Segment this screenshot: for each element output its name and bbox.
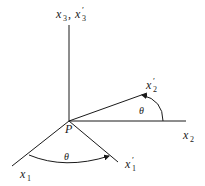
x2-label: x 2 [182,128,194,144]
svg-text:1: 1 [132,164,136,173]
svg-text:2: 2 [153,85,157,94]
origin-label: P [64,122,73,136]
svg-text:2: 2 [190,135,194,144]
x1-prime-axis [69,121,118,162]
x3-axis-label: x 3 , x ′ 3 [55,5,86,23]
lower-theta-label: θ [64,151,69,162]
svg-text:x: x [55,7,62,21]
svg-text:,: , [68,7,71,21]
svg-text:3: 3 [82,14,86,23]
svg-text:1: 1 [27,174,31,183]
lower-angle-arc [29,155,109,163]
x1-label: x 1 [19,167,31,183]
svg-text:x: x [19,167,26,181]
upper-theta-label: θ [139,105,144,116]
svg-text:x: x [182,128,189,142]
coordinate-rotation-diagram: x 3 , x ′ 3 x ′ 2 x 2 x 1 x ′ 1 P θ θ [0,0,205,186]
svg-text:x: x [124,157,131,171]
svg-text:3: 3 [63,14,67,23]
svg-text:x: x [74,7,81,21]
x2-prime-axis [69,93,147,121]
x1-prime-label: x ′ 1 [124,155,136,173]
x2-prime-label: x ′ 2 [145,76,157,94]
upper-angle-arc [142,95,163,121]
svg-text:x: x [145,78,152,92]
